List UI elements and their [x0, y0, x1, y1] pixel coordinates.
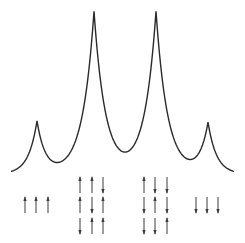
arrow-up-icon: [23, 196, 26, 213]
arrow-down-icon: [165, 177, 168, 194]
arrow-down-icon: [142, 197, 145, 214]
arrow-down-icon: [101, 177, 104, 194]
arrow-down-icon: [90, 197, 93, 214]
arrow-up-icon: [90, 217, 93, 234]
arrow-up-icon: [142, 176, 145, 193]
arrow-down-icon: [153, 218, 156, 235]
spin-group-all-down: [194, 197, 219, 214]
arrow-down-icon: [216, 197, 219, 214]
arrow-up-icon: [90, 176, 93, 193]
arrow-up-icon: [153, 196, 156, 213]
spin-group-all-up: [23, 196, 49, 213]
arrow-down-icon: [165, 197, 168, 214]
arrow-up-icon: [34, 196, 37, 213]
diagram-stage: [0, 0, 245, 243]
arrow-up-icon: [101, 196, 104, 213]
arrow-down-icon: [205, 197, 208, 214]
spin-arrow-groups: [23, 176, 219, 235]
arrow-down-icon: [142, 218, 145, 235]
spin-group-one-up-two-down: [142, 176, 168, 235]
spectrum-curve: [11, 11, 234, 171]
arrow-down-icon: [78, 218, 81, 235]
arrow-up-icon: [46, 196, 49, 213]
arrow-up-icon: [165, 217, 168, 234]
arrow-up-icon: [78, 176, 81, 193]
arrow-down-icon: [194, 197, 197, 214]
spectrum-plot: [0, 0, 245, 243]
spin-group-two-up-one-down: [78, 176, 104, 235]
arrow-down-icon: [153, 177, 156, 194]
arrow-up-icon: [101, 217, 104, 234]
arrow-up-icon: [78, 196, 81, 213]
